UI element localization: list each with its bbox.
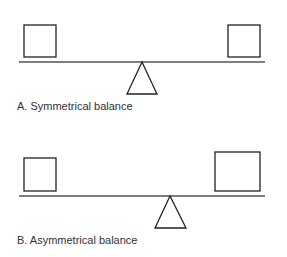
panel-asymmetrical-balance (19, 152, 265, 228)
panel-symmetrical-balance (19, 25, 265, 94)
balance-diagram (0, 0, 287, 257)
fulcrum-a (127, 62, 157, 94)
fulcrum-b (155, 196, 186, 228)
weight-right-b (215, 152, 260, 191)
caption-asymmetrical-balance: B. Asymmetrical balance (17, 234, 137, 246)
caption-symmetrical-balance: A. Symmetrical balance (17, 100, 133, 112)
weight-right-a (228, 25, 260, 57)
weight-left-a (24, 25, 56, 57)
weight-left-b (24, 158, 56, 191)
